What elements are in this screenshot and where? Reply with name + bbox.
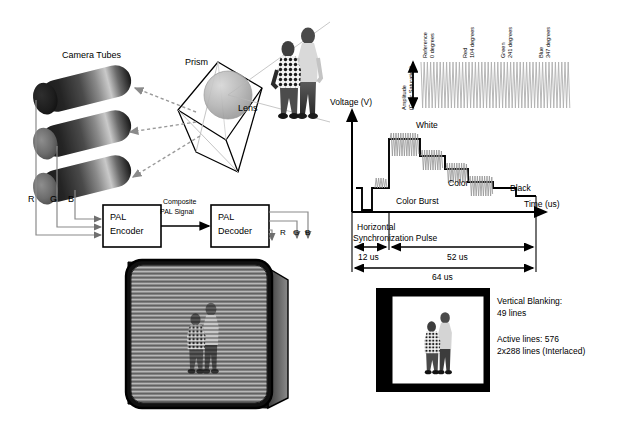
phase-label-red-degrees: 104 degrees [469,27,476,58]
output-label-b: B [305,228,310,237]
channel-label-b: B [68,194,74,205]
phase-label-blue-degrees: 347 degrees [545,27,552,58]
prism-to-tube-arrows [130,88,200,177]
rgb-wires [36,100,101,235]
camera-tubes-label: Camera Tubes [62,50,121,61]
voltage-axis-label: Voltage (V) [330,97,372,107]
black-level-label: Black [510,183,531,193]
phase-label-reference-degrees: 0 degrees [429,33,436,58]
amplitude-label-line1: Amplitude [401,85,408,110]
pal-encoder-label-line1: PAL [110,212,126,223]
pal-decoder-label-line2: Decoder [218,226,252,237]
hsync-label-line1: Horizontal [357,222,395,232]
phase-label-green-name: Green [500,42,507,58]
channel-label-g: G [50,194,57,205]
subcarrier-legend [413,62,570,108]
phase-label-red-name: Red [462,48,469,58]
composite-label-line2: PAL Signal [160,208,194,216]
phase-label-blue-name: Blue [538,47,545,58]
camera-tube-1 [30,62,135,117]
composite-label-line1: Composite [163,198,196,206]
color-level-label: Color [448,178,468,188]
time-axis-label: Time (us) [524,199,560,209]
output-label-r: R [280,228,286,237]
lens-label: Lens [238,103,258,114]
waveform-trace [356,139,536,210]
vertical-blanking-line1: Vertical Blanking: [497,296,562,306]
phase-label-green-degrees: 241 degrees [507,27,514,58]
output-label-g: G [293,228,299,237]
vertical-blanking-line2: 49 lines [497,308,526,318]
phase-label-reference-name: Reference [422,32,429,58]
hsync-label-line2: Synchronization Pulse [353,233,437,243]
color-burst-label: Color Burst [396,196,439,206]
subcarrier-waveform [421,62,570,108]
subject-photo-raster [418,306,460,380]
pal-system-diagram: Camera Tubes Prism Lens R G B PAL Encode… [0,0,622,430]
camera-tubes-group [30,62,135,207]
timing-label-12us: 12 us [358,252,379,262]
tv-scanline-overlay [131,265,267,403]
channel-label-r: R [28,194,35,205]
decoder-rgb-outputs [269,212,308,240]
color-burst-packets [375,133,493,196]
prism-shape [178,62,262,172]
pal-encoder-label-line2: Encoder [110,226,144,237]
timing-label-64us: 64 us [432,272,453,282]
amplitude-label-line2: (Color Saturation) [408,66,415,110]
timing-label-52us: 52 us [447,252,468,262]
active-lines-line1: Active lines: 576 [497,334,559,344]
camera-tube-3 [30,152,135,207]
active-lines-line2: 2x288 lines (Interlaced) [497,346,585,356]
white-level-label: White [416,120,438,130]
subject-photo-main [268,22,330,124]
prism-label: Prism [185,57,208,68]
camera-tube-2 [30,107,135,162]
pal-decoder-label-line1: PAL [218,212,234,223]
